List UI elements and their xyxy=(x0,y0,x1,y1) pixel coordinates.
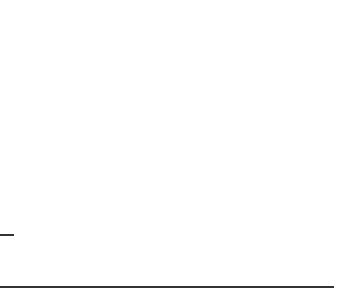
answer-blank-line xyxy=(0,234,14,236)
separator-line xyxy=(0,286,334,288)
